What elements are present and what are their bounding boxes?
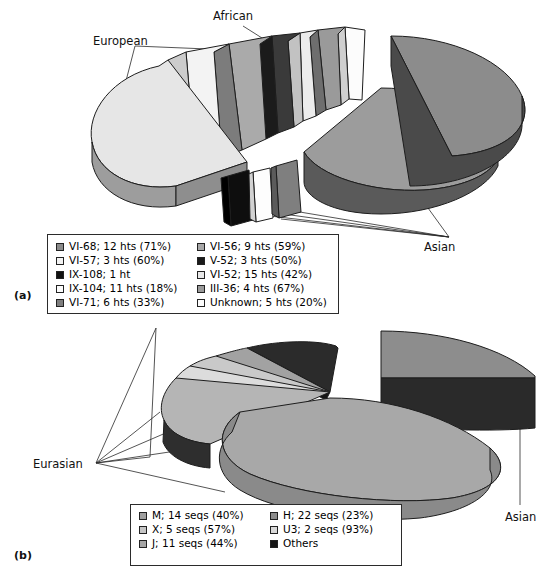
legend-panel-b: M; 14 seqs (40%) H; 22 seqs (23%) X; 5 s… [130, 504, 402, 566]
legend-item-label: M; 14 seqs (40%) [152, 509, 244, 522]
legend-swatch-icon [139, 512, 147, 520]
figure-container: .edge{stroke:#1d1d1d;stroke-width:1;} .l… [0, 0, 560, 580]
legend-item-label: J; 11 seqs (44%) [152, 537, 238, 550]
legend-panel-b-grid: M; 14 seqs (40%) H; 22 seqs (23%) X; 5 s… [139, 509, 393, 550]
legend-item-label: Others [283, 537, 318, 550]
legend-swatch-icon [139, 540, 147, 548]
legend-item: H; 22 seqs (23%) [270, 509, 393, 522]
legend-item: J; 11 seqs (44%) [139, 537, 262, 550]
legend-item-label: U3; 2 seqs (93%) [283, 523, 373, 536]
legend-item: M; 14 seqs (40%) [139, 509, 262, 522]
callout-asian-panel-b: Asian [505, 510, 536, 524]
panel-b-pie-chart [0, 0, 560, 580]
legend-swatch-icon [139, 526, 147, 534]
legend-swatch-icon [270, 512, 278, 520]
legend-item: U3; 2 seqs (93%) [270, 523, 393, 536]
panel-b-label: (b) [14, 549, 32, 562]
callout-eurasian: Eurasian [33, 457, 83, 471]
legend-swatch-icon [270, 526, 278, 534]
legend-item: Others [270, 537, 393, 550]
legend-item: X; 5 seqs (57%) [139, 523, 262, 536]
legend-item-label: H; 22 seqs (23%) [283, 509, 373, 522]
legend-swatch-icon [270, 540, 278, 548]
legend-item-label: X; 5 seqs (57%) [152, 523, 235, 536]
